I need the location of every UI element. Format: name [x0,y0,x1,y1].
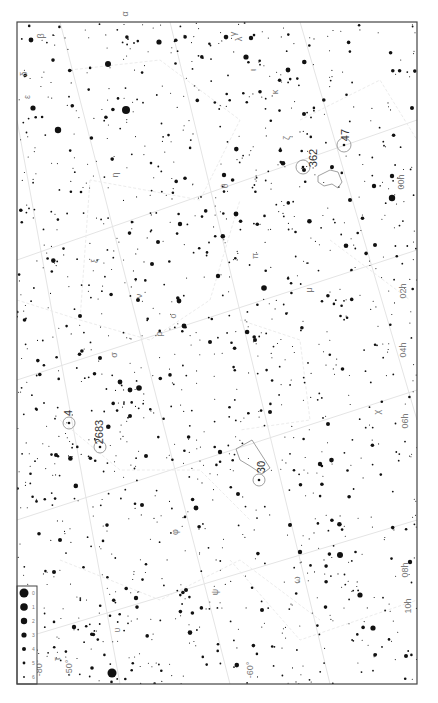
star [116,238,117,239]
star-greek-label: δ [19,71,29,76]
star [180,26,182,28]
bright-star [178,222,182,226]
star [196,448,197,449]
star [283,304,285,306]
star [271,357,272,358]
star [157,436,160,439]
bright-star [134,596,138,600]
star [41,116,44,119]
star [71,447,73,449]
star [374,597,375,598]
star [110,681,113,684]
star [373,301,374,302]
star [79,597,81,599]
star [393,279,395,281]
star [108,493,110,495]
star [43,364,46,367]
star [214,421,216,423]
star [257,355,258,356]
star [52,504,54,506]
bright-star [128,388,133,393]
star [414,499,415,500]
bright-star [156,240,160,244]
star [384,215,385,216]
star [220,274,221,275]
star [282,633,283,634]
star [344,243,349,248]
star [115,455,116,456]
star [267,170,269,172]
star [88,284,90,286]
star [42,40,43,41]
star [50,293,51,294]
star [210,58,212,60]
constellation-lines [17,60,417,640]
bright-star [222,173,226,177]
star [221,607,222,608]
star [96,218,97,219]
star [324,564,328,568]
star [340,31,341,32]
star [98,361,99,362]
star [290,292,293,295]
star [50,453,53,456]
bright-star [98,356,102,360]
star [220,663,222,665]
star [122,42,124,44]
star [402,220,404,222]
star [214,376,215,377]
star [51,270,54,273]
cluster-core [302,166,305,169]
star [111,108,115,112]
star [29,472,32,475]
star [196,23,197,24]
star [206,255,208,257]
star [231,459,234,462]
star [135,406,136,407]
star [21,38,23,40]
star [408,396,411,399]
bright-star [249,36,253,40]
bright-star [337,552,343,558]
star [346,316,349,319]
star [124,678,127,681]
star [150,619,151,620]
star [281,648,282,649]
star [317,399,319,401]
star [28,118,30,120]
star [382,597,384,599]
star [135,253,136,254]
star [37,340,38,341]
star [329,458,334,463]
star [409,456,410,457]
star [93,175,94,176]
star [181,591,185,595]
star [74,171,76,173]
star [144,279,147,282]
star [145,292,146,293]
star [307,362,309,364]
star [278,79,282,83]
star [234,147,239,152]
star [151,214,152,215]
star [382,357,384,359]
star [272,95,273,96]
star [193,641,194,642]
star [68,96,70,98]
star [372,440,373,441]
star [287,82,289,84]
magnitude-legend: 6543210 [17,586,37,684]
star [191,42,192,43]
star [64,531,65,532]
star [233,640,235,642]
star [282,213,283,214]
star [153,177,154,178]
star [155,495,156,496]
star [174,327,176,329]
bright-star [373,243,377,247]
star [100,327,101,328]
grid-line [17,520,417,640]
star [395,659,396,660]
star [333,368,334,369]
star [81,381,82,382]
